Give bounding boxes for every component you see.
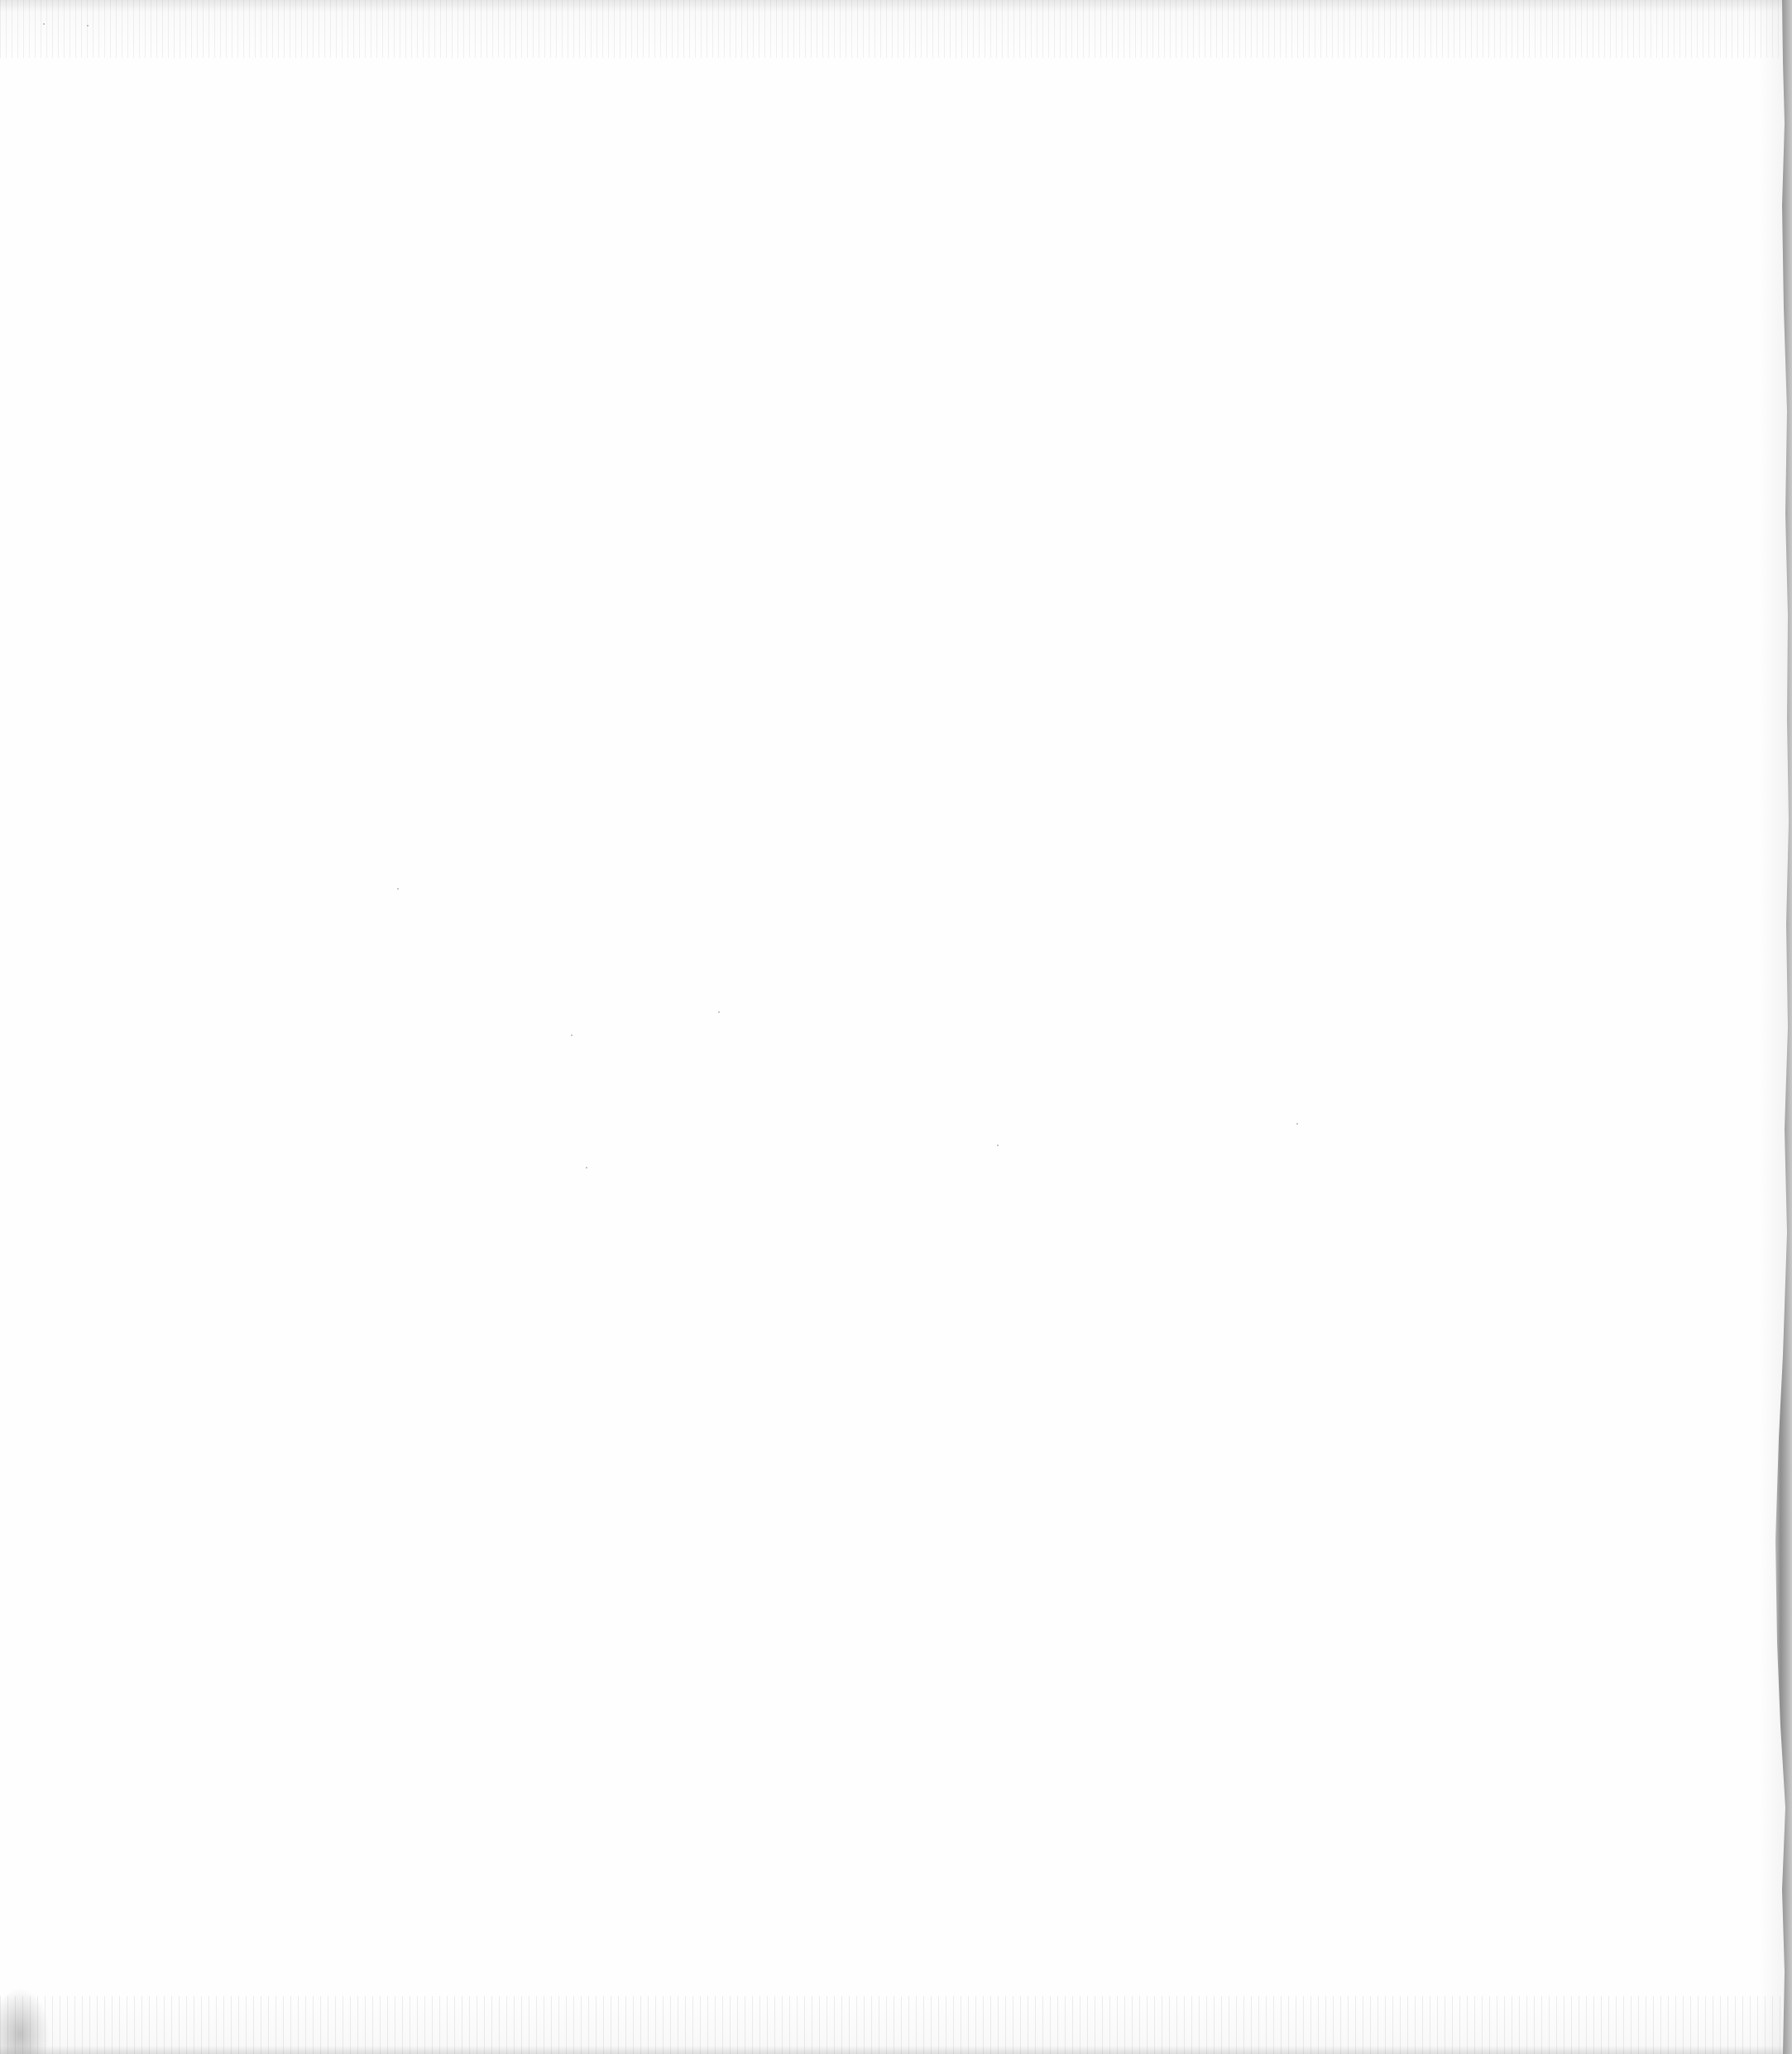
scan-speck	[1296, 1123, 1298, 1125]
scan-noise-top	[0, 0, 1792, 58]
scan-speck	[87, 25, 89, 26]
scan-speck	[397, 888, 399, 890]
scan-speck	[718, 1011, 720, 1013]
scan-speck	[571, 1034, 573, 1036]
scan-noise-bottom	[0, 1996, 1792, 2054]
scan-speck	[586, 1167, 587, 1169]
scan-speck	[997, 1145, 999, 1146]
scan-speck	[43, 23, 45, 25]
blank-page	[0, 0, 1792, 2054]
scan-smudge-bottom-left	[0, 1988, 50, 2054]
